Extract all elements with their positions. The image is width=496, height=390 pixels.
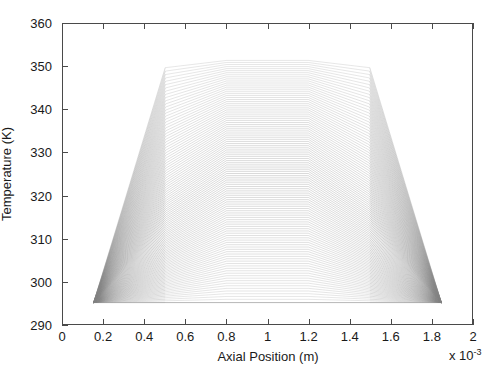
x-tick-mark xyxy=(62,319,63,325)
x-tick-mark xyxy=(432,319,433,325)
x-tick-label: 1 xyxy=(264,329,271,344)
plot-area xyxy=(62,23,473,325)
y-tick-mark xyxy=(62,66,68,67)
y-tick-label: 310 xyxy=(30,231,52,246)
y-tick-label: 330 xyxy=(30,145,52,160)
figure-canvas: Temperature (K) 290300310320330340350360… xyxy=(0,0,496,390)
x-tick-mark-top xyxy=(473,23,474,29)
y-tick-label: 300 xyxy=(30,274,52,289)
temperature-profile-curves xyxy=(63,24,472,324)
y-tick-mark xyxy=(62,196,68,197)
x-tick-mark xyxy=(391,319,392,325)
x-tick-mark-top xyxy=(391,23,392,29)
x-tick-label: 1.8 xyxy=(423,329,441,344)
x-tick-mark xyxy=(268,319,269,325)
x-tick-label: 0.6 xyxy=(176,329,194,344)
x-tick-mark-top xyxy=(432,23,433,29)
x-tick-mark xyxy=(226,319,227,325)
x-tick-label: 1.2 xyxy=(300,329,318,344)
x-tick-mark xyxy=(144,319,145,325)
y-tick-label: 360 xyxy=(30,16,52,31)
x-tick-label: 1.4 xyxy=(341,329,359,344)
x-tick-mark-top xyxy=(62,23,63,29)
x-tick-mark-top xyxy=(185,23,186,29)
y-tick-label: 320 xyxy=(30,188,52,203)
x-tick-label: 0.8 xyxy=(217,329,235,344)
x-tick-mark xyxy=(309,319,310,325)
x-tick-mark xyxy=(103,319,104,325)
x-axis-multiplier: x 10-3 xyxy=(449,347,482,363)
y-tick-mark xyxy=(62,109,68,110)
y-tick-mark xyxy=(62,325,68,326)
y-tick-labels: 290300310320330340350360 xyxy=(0,23,58,325)
y-tick-mark xyxy=(62,282,68,283)
x-tick-label: 0 xyxy=(58,329,65,344)
x-tick-mark-top xyxy=(103,23,104,29)
x-axis-label: Axial Position (m) xyxy=(217,349,318,364)
x-tick-mark xyxy=(473,319,474,325)
y-tick-label: 350 xyxy=(30,59,52,74)
x-tick-label: 0.4 xyxy=(135,329,153,344)
x-tick-label: 1.6 xyxy=(382,329,400,344)
x-tick-mark-top xyxy=(268,23,269,29)
x-tick-label: 0.2 xyxy=(94,329,112,344)
x-tick-mark-top xyxy=(309,23,310,29)
x-tick-label: 2 xyxy=(469,329,476,344)
x-tick-mark-top xyxy=(350,23,351,29)
y-tick-mark xyxy=(62,152,68,153)
x-tick-mark-top xyxy=(226,23,227,29)
y-tick-label: 340 xyxy=(30,102,52,117)
x-tick-mark xyxy=(350,319,351,325)
y-tick-label: 290 xyxy=(30,318,52,333)
x-tick-mark-top xyxy=(144,23,145,29)
x-tick-mark xyxy=(185,319,186,325)
y-tick-mark xyxy=(62,239,68,240)
